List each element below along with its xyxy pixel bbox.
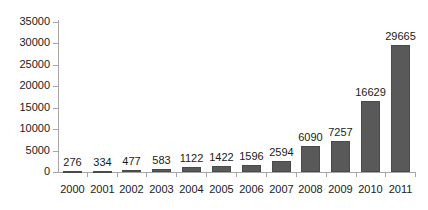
x-tick-mark-3 — [176, 172, 177, 177]
x-tick-mark-1 — [117, 172, 118, 177]
bar-2002 — [122, 170, 141, 172]
y-tick-label-5000: 5000 — [0, 145, 50, 156]
y-tick-label-0: 0 — [0, 166, 50, 177]
bar-2010 — [361, 101, 380, 172]
bar-value-label-2010: 16629 — [351, 86, 390, 98]
y-tick-label-20000: 20000 — [0, 80, 50, 91]
bar-2009 — [331, 141, 350, 172]
y-tick-label-25000: 25000 — [0, 59, 50, 70]
bar-2011 — [391, 45, 410, 172]
x-tick-mark-5 — [236, 172, 237, 177]
y-tick-label-10000: 10000 — [0, 123, 50, 134]
x-tick-mark-4 — [206, 172, 207, 177]
x-tick-mark-10 — [385, 172, 386, 177]
x-category-label-2011: 2011 — [381, 183, 420, 195]
bar-2000 — [63, 171, 82, 173]
y-tick-label-15000: 15000 — [0, 102, 50, 113]
bar-2003 — [152, 169, 171, 172]
bar-2006 — [242, 165, 261, 172]
bar-2005 — [212, 166, 231, 172]
x-tick-mark-11 — [415, 172, 416, 177]
bar-chart: 35000 30000 25000 20000 15000 10000 5000… — [0, 0, 428, 210]
x-tick-mark-6 — [266, 172, 267, 177]
bar-value-label-2007: 2594 — [262, 146, 301, 158]
bar-value-label-2009: 7257 — [321, 126, 360, 138]
y-axis-line — [58, 20, 59, 173]
bar-2001 — [93, 171, 112, 173]
bar-2008 — [301, 146, 320, 172]
y-axis-labels: 35000 30000 25000 20000 15000 10000 5000… — [0, 0, 50, 210]
x-tick-mark-7 — [296, 172, 297, 177]
x-tick-mark-8 — [326, 172, 327, 177]
x-tick-mark-0 — [87, 172, 88, 177]
bar-2004 — [182, 167, 201, 172]
y-tick-label-30000: 30000 — [0, 37, 50, 48]
bar-value-label-2011: 29665 — [381, 30, 420, 42]
x-tick-mark-9 — [356, 172, 357, 177]
x-tick-mark-2 — [146, 172, 147, 177]
bar-2007 — [272, 161, 291, 172]
y-tick-label-35000: 35000 — [0, 16, 50, 27]
